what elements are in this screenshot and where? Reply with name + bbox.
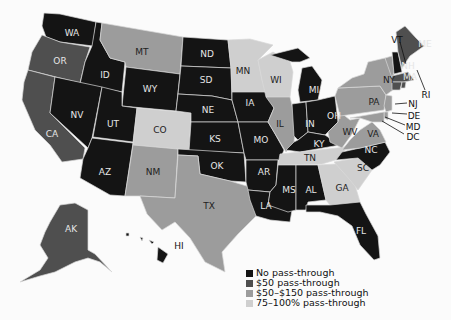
legend-swatch (246, 290, 253, 297)
state-label-wy: WY (143, 84, 158, 94)
state-label-ms: MS (282, 185, 296, 195)
state-label-il: IL (276, 119, 284, 129)
state-label-ks: KS (209, 134, 221, 144)
state-label-nc: NC (364, 145, 377, 155)
state-label-al: AL (305, 185, 316, 195)
state-label-pa: PA (368, 97, 380, 107)
state-label-me: ME (418, 39, 432, 49)
legend-swatch (246, 300, 253, 307)
state-NJ (384, 95, 392, 112)
state-label-hi: HI (174, 241, 183, 251)
state-label-sc: SC (357, 163, 369, 173)
state-label-id: ID (100, 70, 110, 80)
state-label-in: IN (305, 119, 314, 129)
state-label-ky: KY (313, 139, 325, 149)
state-label-ne: NE (202, 105, 215, 115)
us-map: WAORCAIDNVMTWYUTAZCONMNDSDNEKSOKTXMNWIIA… (0, 0, 451, 320)
legend-swatch (246, 280, 253, 287)
state-label-md: MD (406, 122, 421, 132)
state-label-ia: IA (246, 98, 256, 108)
state-label-wv: WV (342, 127, 358, 137)
state-AK (20, 203, 112, 282)
state-label-tn: TN (303, 153, 316, 163)
legend-swatch (246, 270, 253, 277)
state-label-mn: MN (236, 66, 251, 76)
state-label-va: VA (367, 129, 380, 139)
state-label-la: LA (260, 201, 272, 211)
state-label-nh: NH (401, 61, 415, 71)
state-label-ma: MA (403, 72, 418, 82)
state-label-ar: AR (258, 167, 270, 177)
state-label-de: DE (408, 111, 421, 121)
state-label-sd: SD (200, 75, 213, 85)
legend: No pass-through $50 pass-through $50–$15… (246, 268, 369, 308)
state-label-vt: VT (391, 35, 403, 45)
state-label-ak: AK (65, 224, 78, 234)
state-label-wi: WI (270, 75, 282, 85)
state-label-mi: MI (309, 85, 319, 95)
legend-item: 75–100% pass-through (246, 298, 369, 308)
state-label-mo: MO (254, 135, 269, 145)
state-label-ca: CA (46, 129, 59, 139)
state-label-ny: NY (383, 75, 396, 85)
state-label-ok: OK (211, 161, 225, 171)
state-label-nv: NV (71, 110, 85, 120)
state-label-ut: UT (107, 119, 120, 129)
legend-label: 75–100% pass-through (256, 298, 366, 308)
state-label-fl: FL (356, 226, 366, 236)
state-label-wa: WA (65, 28, 80, 38)
state-label-az: AZ (99, 167, 111, 177)
state-label-tx: TX (202, 201, 215, 211)
state-HI (126, 233, 168, 263)
state-DE (384, 112, 388, 120)
state-RI (401, 82, 406, 88)
state-label-ga: GA (335, 183, 349, 193)
state-label-mt: MT (135, 47, 149, 57)
state-label-co: CO (153, 125, 166, 135)
state-label-nj: NJ (408, 99, 417, 109)
state-FL (306, 202, 380, 260)
state-label-oh: OH (327, 111, 341, 121)
state-label-dc: DC (406, 132, 419, 142)
state-label-nd: ND (200, 49, 214, 59)
state-label-or: OR (53, 56, 66, 66)
state-label-nm: NM (146, 167, 161, 177)
state-label-ri: RI (422, 90, 431, 100)
